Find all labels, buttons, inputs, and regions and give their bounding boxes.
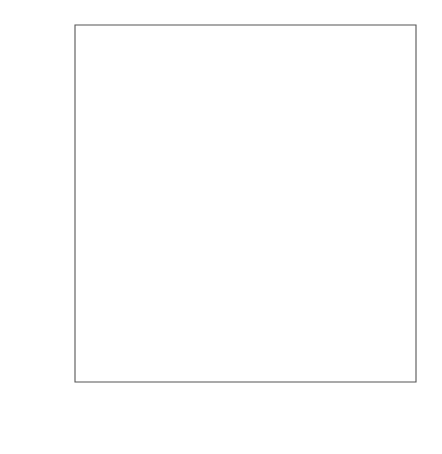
scatter-plot-figure [0,0,442,454]
plot-canvas [0,0,442,454]
plot-frame [75,25,416,382]
axis-frame-box [75,25,416,382]
